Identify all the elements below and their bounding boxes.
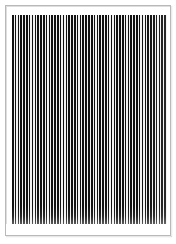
test-pattern-canvas: Vertical Line Grating Test Pattern A den…: [0, 0, 176, 244]
bottom-quiet-zone: [6, 224, 170, 235]
vertical-line-grating: [12, 15, 167, 224]
